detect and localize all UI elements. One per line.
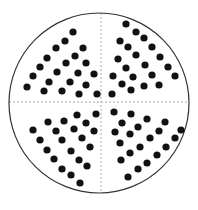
dot <box>116 37 123 44</box>
dot-pattern-diagram <box>0 0 198 210</box>
dot <box>156 53 163 60</box>
dot <box>52 127 59 134</box>
dot <box>43 54 50 61</box>
dot-groups <box>23 20 184 186</box>
dot <box>146 134 153 141</box>
dot <box>109 72 116 79</box>
dot <box>67 171 74 178</box>
dot <box>127 86 134 93</box>
dot <box>53 68 60 75</box>
dot <box>44 118 51 125</box>
dot <box>136 143 143 150</box>
dot <box>79 44 86 51</box>
dot <box>162 143 169 150</box>
quadrant-dividers <box>9 13 189 193</box>
dot <box>124 173 131 180</box>
dot <box>93 90 100 97</box>
dot <box>140 34 147 41</box>
dot <box>45 78 52 85</box>
dot <box>58 136 65 143</box>
dot <box>60 117 67 124</box>
dot <box>36 136 43 143</box>
dot <box>114 55 121 62</box>
dot <box>143 115 150 122</box>
outer-circle <box>9 13 189 193</box>
dot <box>23 83 30 90</box>
quadrant-bottom-left <box>29 110 99 186</box>
dot <box>90 127 97 134</box>
dot <box>132 28 139 35</box>
dot <box>29 126 36 133</box>
dot <box>118 80 125 87</box>
dot <box>43 146 50 153</box>
dot <box>132 51 139 58</box>
dot <box>155 127 162 134</box>
dot <box>75 90 82 97</box>
diagram-canvas <box>0 0 198 210</box>
dot <box>171 72 178 79</box>
dot <box>66 78 73 85</box>
dot <box>83 162 90 169</box>
dot <box>75 156 82 163</box>
dot <box>76 179 83 186</box>
dot <box>58 87 65 94</box>
dot <box>118 119 125 126</box>
dot <box>92 110 99 117</box>
dot <box>69 28 76 35</box>
dot <box>82 59 89 66</box>
dot <box>36 63 43 70</box>
dot <box>148 71 155 78</box>
dot <box>78 134 85 141</box>
dot <box>82 81 89 88</box>
dot <box>73 111 80 118</box>
dot <box>129 73 136 80</box>
dot <box>141 61 148 68</box>
dot <box>61 37 68 44</box>
dot <box>90 70 97 77</box>
dot <box>134 123 141 130</box>
dot <box>74 69 81 76</box>
dot <box>50 155 57 162</box>
dot <box>127 110 134 117</box>
dot <box>171 134 178 141</box>
dot <box>116 139 123 146</box>
dot <box>111 128 118 135</box>
dot <box>86 143 93 150</box>
dot <box>126 149 133 156</box>
dot <box>143 159 150 166</box>
dot <box>140 82 147 89</box>
dot <box>126 130 133 137</box>
dot <box>177 126 184 133</box>
dot <box>62 59 69 66</box>
dot <box>117 156 124 163</box>
dot <box>70 125 77 132</box>
dot <box>161 118 168 125</box>
dot <box>71 52 78 59</box>
dot <box>40 87 47 94</box>
quadrant-top-right <box>108 20 178 97</box>
dot <box>148 43 155 50</box>
dot <box>67 147 74 154</box>
dot <box>164 63 171 70</box>
dot <box>124 43 131 50</box>
dot <box>108 90 115 97</box>
quadrant-bottom-right <box>110 108 184 180</box>
dot <box>52 44 59 51</box>
dot <box>29 72 36 79</box>
dot <box>134 165 141 172</box>
dot <box>82 119 89 126</box>
dot <box>110 108 117 115</box>
dot <box>153 151 160 158</box>
dot <box>58 165 65 172</box>
dot <box>122 20 129 27</box>
dot <box>155 81 162 88</box>
quadrant-top-left <box>23 28 100 97</box>
dot <box>122 64 129 71</box>
